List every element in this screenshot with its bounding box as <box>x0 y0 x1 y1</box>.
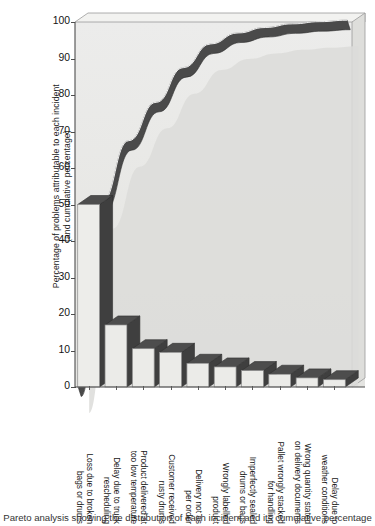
y-axis-tick-label: 70 <box>36 125 70 136</box>
chart-canvas <box>75 22 365 387</box>
x-axis-label-line: rescheduling <box>102 392 112 524</box>
x-axis-tick-mark <box>171 386 172 390</box>
x-axis-label-line: Imperfectly sealed <box>248 392 258 524</box>
x-axis-label-line: Pallet wrongly stacked <box>275 392 285 524</box>
x-axis-label: Imperfectly sealeddrums or bags <box>242 392 257 524</box>
x-axis-label: Wrongly labelledproduct <box>215 392 230 524</box>
x-axis-label-line: Wrong quantity stated <box>302 392 312 524</box>
x-axis-label: Delay due toweather conditions <box>324 392 339 524</box>
x-axis-label-line: weather conditions <box>320 392 330 524</box>
x-axis-label-line: on delivery documents <box>293 392 303 524</box>
x-axis-tick-mark <box>334 386 335 390</box>
y-axis-tick-label: 20 <box>36 307 70 318</box>
x-axis-label-line: Delay due to <box>330 392 340 524</box>
x-axis-tick-mark <box>89 386 90 390</box>
x-axis-tick-mark <box>116 386 117 390</box>
bar-front-face <box>242 371 264 387</box>
x-axis-label: Pallet wrongly stackedfor handling <box>270 392 285 524</box>
x-axis-label: Customer receivedrusty drums <box>161 392 176 524</box>
x-axis-tick-mark <box>225 386 226 390</box>
bar-front-face <box>105 325 127 387</box>
x-axis-label: Wrong quantity statedon delivery documen… <box>297 392 312 524</box>
y-axis-tick-label: 30 <box>36 271 70 282</box>
x-axis-label-line: Delay due to truck <box>111 392 121 524</box>
plot-box-top <box>75 13 365 22</box>
x-axis-label-line: rusty drums <box>156 392 166 524</box>
bar-front-face <box>160 352 182 387</box>
y-axis-tick-label: 60 <box>36 161 70 172</box>
x-axis-label-line: bags or drums <box>74 392 84 524</box>
bar-front-face <box>132 349 154 387</box>
x-axis-label-line: Customer received <box>166 392 176 524</box>
y-axis-tick-label: 10 <box>36 344 70 355</box>
y-axis-title-line1: Percentage of problems attributable to e… <box>51 84 61 288</box>
x-axis-label: Loss due to brokenbags or drums <box>79 392 94 524</box>
y-axis-tick-label: 0 <box>36 380 70 391</box>
x-axis-label: Delivery not asper order <box>188 392 203 524</box>
x-axis-tick-mark <box>280 386 281 390</box>
y-axis-title: Percentage of problems attributable to e… <box>51 31 73 341</box>
bar-front-face <box>78 205 100 388</box>
x-axis-tick-mark <box>307 386 308 390</box>
x-axis-label-line: per order <box>184 392 194 524</box>
bar-front-face <box>187 363 209 387</box>
x-axis-label-line: Product delivered at <box>139 392 149 524</box>
x-axis-label-line: Wrongly labelled <box>221 392 231 524</box>
x-axis-tick-mark <box>143 386 144 390</box>
x-axis-tick-mark <box>252 386 253 390</box>
y-axis-tick-label: 40 <box>36 234 70 245</box>
figure-caption: Pareto analysis showing the distribution… <box>0 512 375 526</box>
plot-area <box>75 22 365 387</box>
y-axis-tick-label: 50 <box>36 198 70 209</box>
x-axis-label-line: drums or bags <box>238 392 248 524</box>
y-axis-tick-label: 80 <box>36 88 70 99</box>
x-axis-label: Product delivered attoo low temperature <box>133 392 148 524</box>
y-axis-tick-label: 100 <box>36 15 70 26</box>
x-axis-labels: Loss due to brokenbags or drumsDelay due… <box>75 390 365 526</box>
x-axis-label-line: Delivery not as <box>193 392 203 524</box>
pareto-chart-figure: Percentage of problems attributable to e… <box>0 0 375 526</box>
x-axis-label-line: for handling <box>266 392 276 524</box>
x-axis-label: Delay due to truckrescheduling <box>106 392 121 524</box>
x-axis-label-line: too low temperature <box>129 392 139 524</box>
y-axis-title-line2: (and cumulative percentage) <box>62 31 73 341</box>
x-axis-label-line: Loss due to broken <box>84 392 94 524</box>
x-axis-tick-mark <box>198 386 199 390</box>
bar-front-face <box>214 367 236 387</box>
x-axis-label-line: product <box>211 392 221 524</box>
y-axis-tick-label: 90 <box>36 52 70 63</box>
